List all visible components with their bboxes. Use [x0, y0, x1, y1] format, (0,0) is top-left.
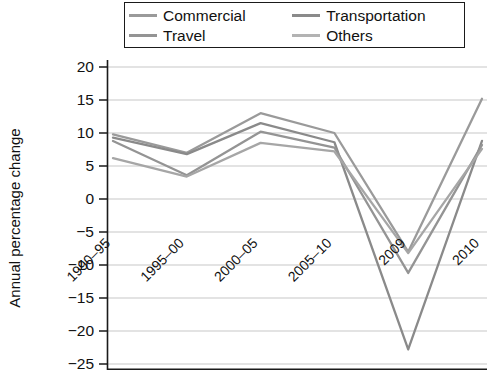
y-tick-label: 20: [77, 58, 95, 75]
legend-grid: Commercial Transportation Travel Others: [125, 3, 464, 48]
legend-item-others: Others: [292, 26, 458, 45]
legend-swatch-travel: [129, 34, 157, 37]
gridlines: [108, 67, 487, 364]
y-tick-labels: 20151050−5−10−15−20−25: [68, 58, 95, 372]
legend-label-commercial: Commercial: [163, 6, 246, 25]
y-tick-label: −5: [76, 223, 94, 240]
legend-swatch-others: [292, 34, 320, 37]
legend-label-others: Others: [326, 26, 373, 45]
axis-ticks: [99, 67, 108, 364]
series-line-transportation: [113, 123, 482, 349]
y-axis-title: Annual percentage change: [6, 128, 23, 307]
series-line-others: [113, 143, 482, 253]
x-tick-labels: 1990–951995–002000–052005–1020092010: [63, 235, 482, 285]
y-tick-label: −15: [68, 289, 94, 306]
y-tick-label: 15: [77, 91, 94, 108]
y-tick-label: 5: [85, 157, 94, 174]
series-lines: [113, 99, 482, 350]
x-tick-label: 2010: [449, 235, 482, 268]
x-tick-label: 2000–05: [211, 235, 261, 285]
y-tick-label: 10: [77, 124, 95, 141]
legend-swatch-commercial: [129, 14, 157, 17]
legend-item-transportation: Transportation: [292, 6, 458, 25]
y-tick-label: 0: [85, 190, 94, 207]
y-tick-label: −25: [68, 355, 94, 372]
legend-item-commercial: Commercial: [129, 6, 278, 25]
x-tick-label: 2005–10: [285, 235, 335, 285]
legend-label-travel: Travel: [163, 26, 206, 45]
legend-swatch-transportation: [292, 14, 320, 17]
legend-item-travel: Travel: [129, 26, 278, 45]
y-tick-label: −20: [68, 322, 95, 339]
chart-legend: Commercial Transportation Travel Others: [124, 2, 465, 48]
legend-label-transportation: Transportation: [326, 6, 425, 25]
chart-figure: Commercial Transportation Travel Others …: [0, 0, 491, 380]
x-tick-label: 1995–00: [137, 235, 187, 285]
chart-plot-area: 20151050−5−10−15−20−25 1990–951995–00200…: [0, 0, 491, 380]
